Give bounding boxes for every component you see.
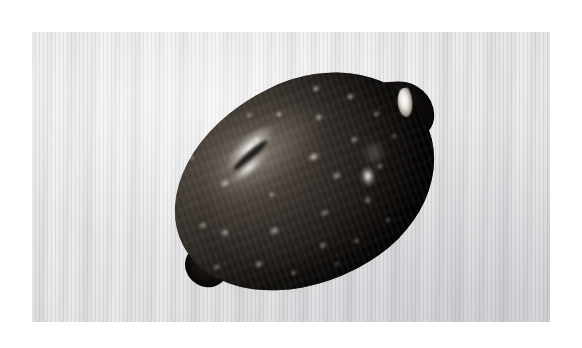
mat-top (0, 0, 582, 32)
photograph (32, 32, 550, 322)
mat-bottom (0, 322, 582, 348)
mat-left (0, 0, 32, 348)
screenshot-root (0, 0, 582, 348)
mat-right (550, 0, 582, 348)
